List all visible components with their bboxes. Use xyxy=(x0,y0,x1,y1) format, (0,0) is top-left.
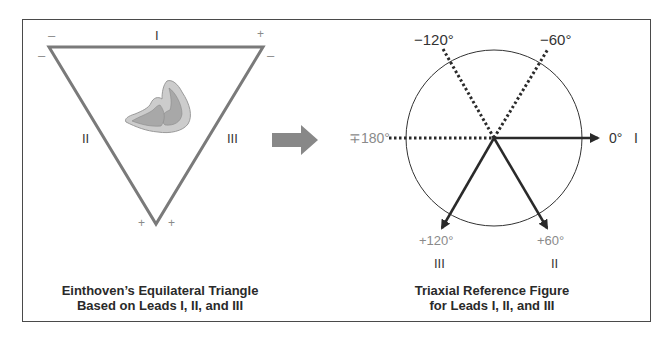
angle-label-180: ∓180° xyxy=(349,130,390,146)
polarity-bottom-left: + xyxy=(138,216,145,230)
polarity-top-left-above: – xyxy=(48,28,55,43)
right-caption: Triaxial Reference Figure for Leads I, I… xyxy=(392,283,592,313)
angle-label-plus60: +60° xyxy=(537,233,564,248)
lead-label-I-right: I xyxy=(634,130,638,146)
polarity-top-left-side: – xyxy=(38,48,45,63)
left-caption: Einthoven’s Equilateral Triangle Based o… xyxy=(50,283,270,313)
lead-label-III-left: III xyxy=(227,131,238,146)
polarity-top-right-side: – xyxy=(267,48,274,63)
angle-label-plus120: +120° xyxy=(419,233,453,248)
lead-label-I-left: I xyxy=(155,28,159,43)
heart-icon xyxy=(125,81,190,133)
right-caption-line2: for Leads I, II, and III xyxy=(392,298,592,313)
lead-label-II-left: II xyxy=(82,131,89,146)
angle-label-minus120: −120° xyxy=(414,31,454,48)
left-caption-line1: Einthoven’s Equilateral Triangle xyxy=(50,283,270,298)
polarity-top-right-above: + xyxy=(257,27,264,41)
lead-label-III-right: III xyxy=(434,256,445,271)
lead-label-II-right: II xyxy=(551,256,558,271)
transform-arrow-icon xyxy=(272,125,318,155)
polarity-bottom-right: + xyxy=(168,216,175,230)
left-caption-line2: Based on Leads I, II, and III xyxy=(50,298,270,313)
angle-label-minus60: −60° xyxy=(540,31,571,48)
lead-III-vector xyxy=(442,138,494,228)
lead-II-vector xyxy=(494,138,547,228)
angle-label-0: 0° xyxy=(609,130,622,146)
right-caption-line1: Triaxial Reference Figure xyxy=(392,283,592,298)
axis-minus120 xyxy=(443,49,494,138)
